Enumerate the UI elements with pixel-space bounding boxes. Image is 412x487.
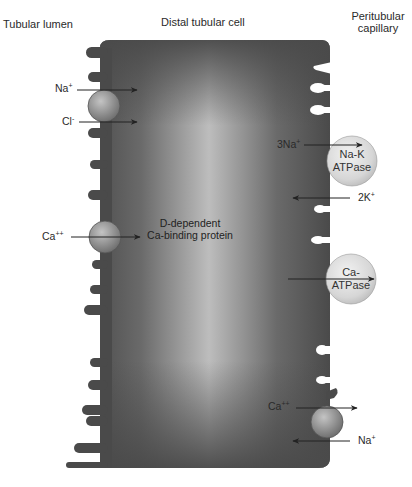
protein-label-line2: Ca-binding protein	[140, 229, 240, 241]
peritubular-capillary-header: Peritubular capillary	[348, 10, 408, 34]
ca-ion-label-luminal: Ca++	[42, 230, 64, 242]
ca-atpase-label: Ca- ATPase	[326, 266, 376, 292]
ca-binding-protein-label: D-dependent Ca-binding protein	[140, 217, 240, 241]
na-ion-label-basolateral: Na+	[358, 434, 376, 446]
na-k-atpase-label: Na-K ATPase	[327, 148, 377, 174]
distal-tubular-cell-header: Distal tubular cell	[161, 16, 245, 28]
na-k-atpase-line2: ATPase	[327, 161, 377, 174]
2k-ion-label: 2K+	[358, 191, 375, 203]
na-k-atpase-line1: Na-K	[327, 148, 377, 161]
ca-atpase-line2: ATPase	[326, 279, 376, 292]
cl-ion-label: Cl-	[62, 115, 74, 127]
ca-atpase-line1: Ca-	[326, 266, 376, 279]
diagram-canvas	[0, 0, 412, 487]
ca-ion-label-basolateral: Ca++	[268, 400, 290, 412]
nacl-cotransporter-sphere	[88, 90, 120, 122]
3na-ion-label: 3Na+	[277, 138, 300, 150]
na-ca-exchanger-sphere	[311, 406, 343, 438]
na-ion-label: Na+	[55, 82, 73, 94]
tubular-lumen-header: Tubular lumen	[3, 18, 73, 30]
peritubular-capillary-line1: Peritubular	[348, 10, 408, 22]
protein-label-line1: D-dependent	[140, 217, 240, 229]
peritubular-capillary-line2: capillary	[348, 22, 408, 34]
